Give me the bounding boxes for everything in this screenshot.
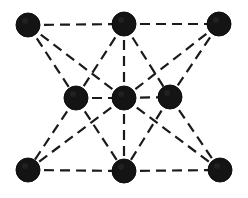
- atom-nodes: [16, 12, 232, 183]
- atom-node-TM: [112, 12, 136, 36]
- atom-highlight: [118, 91, 124, 97]
- bond-edge-MR-BR: [170, 97, 220, 170]
- atom-node-MR: [158, 85, 182, 109]
- atom-highlight: [214, 163, 220, 169]
- atom-circle-icon: [16, 158, 40, 182]
- atom-highlight: [118, 164, 124, 170]
- atom-node-TL: [16, 13, 40, 37]
- atom-circle-icon: [207, 12, 231, 36]
- bond-edge-TM-MR: [124, 24, 170, 97]
- atom-highlight: [22, 18, 28, 24]
- bond-edge-TM-ML: [76, 24, 124, 98]
- atom-circle-icon: [16, 13, 40, 37]
- bond-edge-ML-BM: [76, 98, 124, 171]
- atom-node-ML: [64, 86, 88, 110]
- atom-node-MC: [112, 86, 136, 110]
- atom-node-BM: [112, 159, 136, 183]
- atom-highlight: [22, 163, 28, 169]
- atom-node-TR: [207, 12, 231, 36]
- atom-highlight: [70, 91, 76, 97]
- atom-circle-icon: [112, 86, 136, 110]
- atom-highlight: [118, 17, 124, 23]
- bond-edge-BM-BR: [124, 170, 220, 171]
- atom-circle-icon: [112, 12, 136, 36]
- bond-edge-TL-ML: [28, 25, 76, 98]
- bond-edge-TL-TM: [28, 24, 124, 25]
- atom-circle-icon: [208, 158, 232, 182]
- atom-circle-icon: [64, 86, 88, 110]
- bond-edge-ML-BL: [28, 98, 76, 170]
- bond-edge-BL-BM: [28, 170, 124, 171]
- bond-edge-TR-MR: [170, 24, 219, 97]
- lattice-diagram: [0, 0, 248, 198]
- atom-node-BL: [16, 158, 40, 182]
- atom-circle-icon: [158, 85, 182, 109]
- atom-highlight: [164, 90, 170, 96]
- atom-node-BR: [208, 158, 232, 182]
- atom-highlight: [213, 17, 219, 23]
- atom-circle-icon: [112, 159, 136, 183]
